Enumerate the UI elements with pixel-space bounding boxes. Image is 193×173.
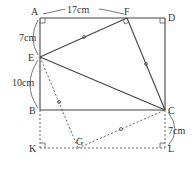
label-B: B [29,105,36,116]
label-E: E [28,52,34,63]
segment-GC [78,110,165,148]
label-F: F [124,6,130,17]
segment-EF [40,18,127,57]
measure-AE: 7cm [19,32,36,43]
label-K: K [29,143,37,154]
right-angle-K-icon [40,143,45,148]
geometry-diagram: 17cm 7cm 10cm 7cm A F D E B C K G L [0,0,193,173]
label-A: A [31,6,39,17]
right-angle-D-icon [160,18,165,23]
diagram-canvas: 17cm 7cm 10cm 7cm A F D E B C K G L [0,0,193,173]
measure-EB: 10cm [12,77,34,88]
label-G: G [76,136,83,147]
label-L: L [168,143,174,154]
label-D: D [168,12,175,23]
equal-mark-GC-icon [120,128,123,131]
right-angle-L-icon [160,143,165,148]
label-C: C [168,105,175,116]
measure-CL: 7cm [168,125,185,136]
right-angle-A-icon [40,18,45,23]
measure-AF: 17cm [67,4,89,15]
